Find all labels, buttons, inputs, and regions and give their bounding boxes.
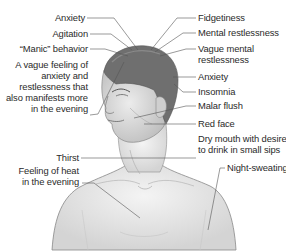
label-red-face: Red face [198, 118, 235, 129]
label-fidgetiness: Fidgetiness [198, 12, 245, 23]
label-heat-evening: Feeling of heat in the evening [18, 165, 79, 187]
label-manic-behavior: “Manic” behavior [20, 43, 88, 54]
label-malar-flush: Malar flush [198, 100, 243, 111]
label-anxiety-left: Anxiety [55, 12, 85, 23]
label-thirst: Thirst [56, 152, 79, 163]
line-fidgetiness [151, 18, 196, 50]
label-dry-mouth: Dry mouth with desire to drink in small … [198, 133, 286, 155]
label-anxiety-right: Anxiety [198, 71, 228, 82]
label-insomnia: Insomnia [198, 86, 235, 97]
label-vague-mental-restlessness: Vague mental restlessness [198, 43, 254, 65]
line-agitation [90, 34, 132, 50]
label-agitation: Agitation [52, 28, 88, 39]
label-vague-feeling: A vague feeling of anxiety and restlessn… [6, 59, 88, 114]
label-mental-restlessness: Mental restlessness [198, 27, 279, 38]
symptom-diagram: Anxiety Agitation “Manic” behavior A vag… [0, 0, 286, 251]
label-night-sweating: Night-sweating [227, 162, 286, 173]
torso [52, 160, 236, 250]
